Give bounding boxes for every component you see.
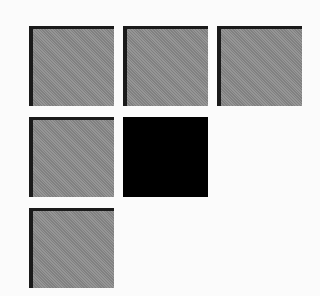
tile-r2-c2-selected[interactable]	[123, 117, 208, 197]
tile-r1-c3[interactable]	[217, 26, 302, 106]
tile-r1-c1[interactable]	[29, 26, 114, 106]
tile-r1-c2[interactable]	[123, 26, 208, 106]
tile-r2-c1[interactable]	[29, 117, 114, 197]
tile-r3-c1[interactable]	[29, 208, 114, 288]
tile-board	[0, 0, 320, 296]
